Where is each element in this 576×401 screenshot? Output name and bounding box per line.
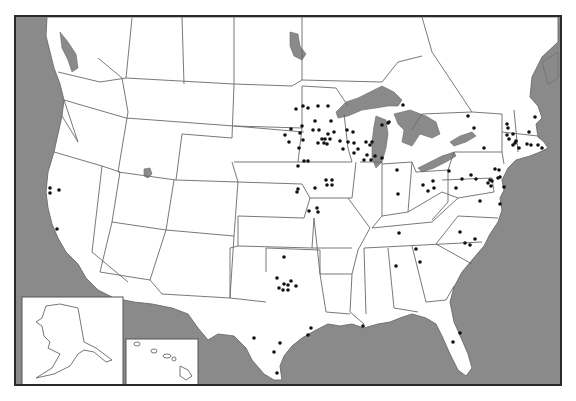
- location-marker: [469, 173, 473, 177]
- location-marker: [421, 183, 425, 187]
- location-marker: [294, 107, 298, 111]
- location-marker: [296, 164, 300, 168]
- location-marker: [486, 181, 490, 185]
- us-map: [14, 15, 562, 386]
- location-marker: [48, 191, 52, 195]
- location-marker: [365, 153, 369, 157]
- location-marker: [529, 143, 533, 147]
- location-marker: [356, 147, 360, 151]
- location-marker: [272, 350, 276, 354]
- location-marker: [309, 326, 313, 330]
- location-marker: [306, 333, 310, 337]
- location-marker: [325, 142, 329, 146]
- location-marker: [472, 126, 476, 130]
- location-marker: [498, 202, 502, 206]
- location-marker: [282, 282, 286, 286]
- location-marker: [432, 186, 436, 190]
- location-marker: [320, 137, 324, 141]
- location-marker: [302, 159, 306, 163]
- location-marker: [511, 143, 515, 147]
- location-marker: [370, 140, 374, 144]
- map-canvas: [16, 17, 562, 386]
- location-marker: [482, 146, 486, 150]
- location-marker: [468, 243, 472, 247]
- location-marker: [540, 146, 544, 150]
- location-marker: [294, 284, 298, 288]
- location-marker: [341, 147, 345, 151]
- location-marker: [338, 139, 342, 143]
- location-marker: [300, 124, 304, 128]
- location-marker: [48, 186, 52, 190]
- location-marker: [346, 140, 350, 144]
- location-marker: [311, 128, 315, 132]
- location-marker: [330, 178, 334, 182]
- location-marker: [298, 131, 302, 135]
- location-marker: [517, 146, 521, 150]
- location-marker: [401, 103, 405, 107]
- location-marker: [313, 119, 317, 123]
- location-marker: [387, 120, 391, 124]
- location-marker: [527, 130, 531, 134]
- location-marker: [373, 154, 377, 158]
- location-marker: [507, 137, 511, 141]
- location-marker: [454, 186, 458, 190]
- location-marker: [275, 276, 279, 280]
- location-marker: [460, 177, 464, 181]
- location-marker: [283, 133, 287, 137]
- location-marker: [489, 184, 493, 188]
- location-marker: [395, 168, 399, 172]
- alaska-inset: [22, 297, 123, 385]
- location-marker: [289, 127, 293, 131]
- location-marker: [493, 167, 497, 171]
- location-marker: [426, 189, 430, 193]
- location-marker: [297, 146, 301, 150]
- location-marker: [361, 324, 365, 328]
- location-marker: [282, 255, 286, 259]
- location-marker: [332, 130, 336, 134]
- location-marker: [325, 183, 329, 187]
- location-marker: [289, 279, 293, 283]
- location-marker: [362, 158, 366, 162]
- location-marker: [511, 132, 515, 136]
- location-marker: [463, 241, 467, 245]
- location-marker: [352, 141, 356, 145]
- location-marker: [315, 206, 319, 210]
- location-marker: [364, 140, 368, 144]
- location-marker: [396, 192, 400, 196]
- location-marker: [316, 141, 320, 145]
- location-marker: [252, 336, 256, 340]
- location-marker: [380, 123, 384, 127]
- location-marker: [307, 209, 311, 213]
- location-marker: [324, 178, 328, 182]
- location-marker: [316, 104, 320, 108]
- location-marker: [352, 151, 356, 155]
- location-marker: [301, 138, 305, 142]
- location-marker: [502, 185, 506, 189]
- location-marker: [397, 231, 401, 235]
- location-marker: [447, 169, 451, 173]
- location-marker: [505, 122, 509, 126]
- location-marker: [414, 247, 418, 251]
- location-marker: [478, 199, 482, 203]
- location-marker: [328, 137, 332, 141]
- location-marker: [306, 159, 310, 163]
- location-marker: [418, 260, 422, 264]
- location-marker: [281, 288, 285, 292]
- location-marker: [458, 331, 462, 335]
- location-marker: [474, 177, 478, 181]
- location-marker: [345, 128, 349, 132]
- location-marker: [394, 264, 398, 268]
- location-marker: [369, 158, 373, 162]
- location-marker: [55, 227, 59, 231]
- location-marker: [286, 288, 290, 292]
- hawaii-inset: [126, 339, 198, 385]
- location-marker: [466, 114, 470, 118]
- location-marker: [431, 179, 435, 183]
- location-marker: [536, 143, 540, 147]
- location-marker: [277, 286, 281, 290]
- location-marker: [506, 126, 510, 130]
- location-marker: [451, 340, 455, 344]
- location-marker: [498, 175, 502, 179]
- location-marker: [317, 128, 321, 132]
- location-marker: [278, 341, 282, 345]
